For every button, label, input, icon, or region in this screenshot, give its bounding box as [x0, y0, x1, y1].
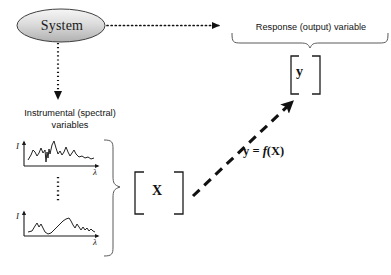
- plot2-spectrum-curve: [28, 218, 95, 234]
- response-vector-symbol: y: [296, 64, 303, 80]
- x-bracket-right: [174, 172, 183, 214]
- plot1-y-axis-label: I: [16, 141, 19, 151]
- response-variable-label: Response (output) variable: [238, 22, 384, 34]
- plot2-x-axis-label: λ: [93, 237, 97, 247]
- plot2-y-axis-label: I: [16, 211, 19, 221]
- plot1-x-axis-label: λ: [93, 167, 97, 177]
- spectrum-plot-top: [24, 141, 98, 166]
- x-bracket-left: [135, 172, 144, 214]
- spectrum-plot-bottom: [24, 212, 98, 236]
- relation-argument: (X): [267, 144, 284, 158]
- relation-expression: y = f(X): [243, 144, 284, 159]
- response-brace: [232, 33, 388, 48]
- instrumental-variables-label: Instrumental (spectral) variables: [10, 108, 130, 131]
- diagram-canvas: System Response (output) variable y Inst…: [0, 0, 391, 275]
- spectra-brace: [104, 140, 120, 256]
- relation-equals: =: [249, 144, 262, 158]
- system-node-label: System: [17, 9, 105, 42]
- system-node: System: [17, 9, 105, 42]
- plot1-spectrum-curve: [28, 141, 94, 162]
- y-bracket-right: [312, 56, 320, 94]
- instrumental-matrix-symbol: X: [152, 183, 162, 199]
